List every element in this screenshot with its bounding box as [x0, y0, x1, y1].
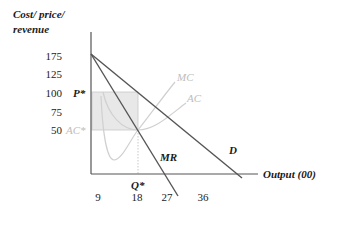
- mr-label: MR: [160, 152, 177, 163]
- ac-label: AC: [187, 93, 201, 104]
- y-tick-75: 75: [32, 107, 62, 118]
- mc-label: MC: [177, 72, 194, 83]
- q-star-label: Q*: [131, 180, 144, 191]
- profit-area: [92, 92, 138, 130]
- p-star-label: P*: [73, 88, 85, 99]
- ac-star-label: AC*: [66, 125, 86, 136]
- x-axis-title: Output (00): [263, 169, 316, 180]
- x-tick-27: 27: [157, 192, 177, 203]
- y-tick-50: 50: [32, 125, 62, 136]
- x-tick-36: 36: [193, 192, 213, 203]
- y-tick-175: 175: [32, 51, 62, 62]
- x-tick-18: 18: [127, 192, 147, 203]
- y-tick-125: 125: [32, 69, 62, 80]
- d-label: D: [229, 145, 237, 156]
- y-tick-100: 100: [32, 88, 62, 99]
- x-tick-9: 9: [88, 192, 108, 203]
